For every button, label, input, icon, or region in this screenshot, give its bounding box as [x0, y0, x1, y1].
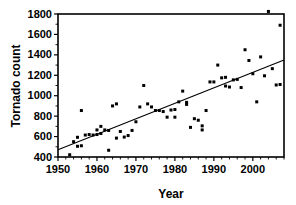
data-point — [131, 129, 134, 132]
data-point — [220, 76, 223, 79]
y-axis-title: Tornado count — [9, 44, 23, 127]
x-tick-label: 1960 — [85, 163, 109, 175]
y-tick-label: 400 — [34, 151, 52, 163]
data-point — [95, 128, 98, 131]
data-point — [251, 72, 254, 75]
data-point — [111, 104, 114, 107]
data-point — [154, 109, 157, 112]
data-point — [146, 102, 149, 105]
data-point — [99, 132, 102, 135]
data-point — [244, 48, 247, 51]
data-point — [271, 67, 274, 70]
data-point — [279, 83, 282, 86]
y-tick-label: 600 — [34, 130, 52, 142]
data-point — [119, 130, 122, 133]
data-point — [177, 100, 180, 103]
data-point — [279, 24, 282, 27]
x-tick-label: 2000 — [241, 163, 265, 175]
data-point — [95, 133, 98, 136]
x-tick-label: 1990 — [202, 163, 226, 175]
data-point — [212, 80, 215, 83]
data-point — [103, 128, 106, 131]
chart-figure: 40060080010001200140016001800 1950196019… — [0, 0, 296, 205]
data-point — [247, 59, 250, 62]
data-point — [173, 116, 176, 119]
data-point — [197, 119, 200, 122]
data-point — [80, 109, 83, 112]
data-point — [92, 134, 95, 137]
data-point — [115, 137, 118, 140]
y-tick-label: 800 — [34, 110, 52, 122]
scatter-points — [68, 10, 281, 156]
data-point — [275, 83, 278, 86]
y-tick-label: 1200 — [28, 69, 52, 81]
data-point — [76, 145, 79, 148]
data-point — [259, 55, 262, 58]
x-tick-label: 1980 — [163, 163, 187, 175]
data-point — [170, 109, 173, 112]
data-point — [267, 10, 270, 13]
data-point — [236, 78, 239, 81]
y-tick-label: 1600 — [28, 28, 52, 40]
y-tick-label: 1800 — [28, 8, 52, 20]
data-point — [201, 128, 204, 131]
y-axis-tick-labels: 40060080010001200140016001800 — [28, 8, 52, 163]
data-point — [255, 100, 258, 103]
data-point — [224, 85, 227, 88]
data-point — [88, 133, 91, 136]
data-point — [224, 76, 227, 79]
data-point — [142, 84, 145, 87]
data-point — [99, 125, 102, 128]
x-axis-tick-labels: 195019601970198019902000 — [46, 163, 265, 175]
data-point — [173, 108, 176, 111]
data-point — [232, 78, 235, 81]
data-point — [138, 105, 141, 108]
data-point — [208, 80, 211, 83]
data-point — [127, 134, 130, 137]
data-point — [123, 136, 126, 139]
data-point — [228, 86, 231, 89]
data-point — [166, 116, 169, 119]
data-point — [76, 136, 79, 139]
x-tick-label: 1950 — [46, 163, 70, 175]
data-point — [84, 134, 87, 137]
data-point — [107, 149, 110, 152]
data-point — [115, 102, 118, 105]
y-tick-label: 1400 — [28, 48, 52, 60]
x-axis-title: Year — [158, 187, 184, 201]
data-point — [134, 120, 137, 123]
y-tick-label: 1000 — [28, 89, 52, 101]
data-point — [181, 90, 184, 93]
data-point — [80, 144, 83, 147]
x-tick-label: 1970 — [124, 163, 148, 175]
data-point — [72, 140, 75, 143]
data-point — [216, 64, 219, 67]
data-point — [193, 117, 196, 120]
data-point — [205, 109, 208, 112]
data-point — [158, 109, 161, 112]
data-point — [240, 86, 243, 89]
data-point — [68, 153, 71, 156]
tornado-count-scatter-plot: 40060080010001200140016001800 1950196019… — [0, 0, 296, 205]
data-point — [263, 74, 266, 77]
data-point — [189, 126, 192, 129]
data-point — [201, 124, 204, 127]
data-point — [107, 129, 110, 132]
data-point — [150, 105, 153, 108]
data-point — [185, 103, 188, 106]
data-point — [162, 110, 165, 113]
